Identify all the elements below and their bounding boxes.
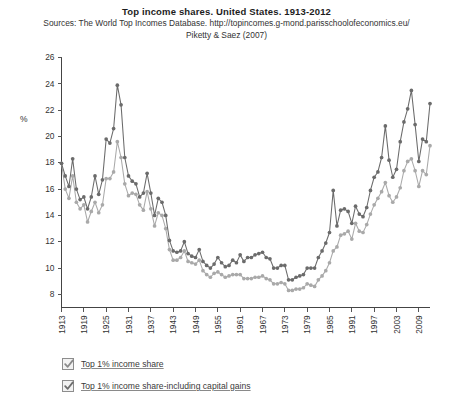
data-point <box>82 203 86 207</box>
series-base <box>60 140 432 292</box>
data-point <box>395 167 399 171</box>
data-point <box>212 271 216 275</box>
data-point <box>324 269 328 273</box>
data-point <box>149 191 153 195</box>
data-point <box>279 264 283 268</box>
legend-checkbox-top1-capgains[interactable] <box>62 380 74 392</box>
data-point <box>179 249 183 253</box>
data-point <box>71 174 75 178</box>
data-point <box>335 245 339 249</box>
series-path <box>62 85 431 280</box>
data-point <box>410 157 414 161</box>
x-tick-label: 1979 <box>303 315 312 334</box>
data-point <box>406 107 410 111</box>
data-point <box>216 270 220 274</box>
data-point <box>93 200 97 204</box>
data-point <box>272 266 276 270</box>
data-point <box>164 214 168 218</box>
data-point <box>313 266 317 270</box>
data-point <box>242 277 246 281</box>
y-tick-label: 26 <box>45 52 55 62</box>
data-point <box>63 187 67 191</box>
data-point <box>115 140 119 144</box>
data-point <box>402 120 406 124</box>
data-point <box>112 127 116 131</box>
data-point <box>246 277 250 281</box>
data-point <box>350 221 354 225</box>
legend-label-top1-capgains: Top 1% income share-including capital ga… <box>81 380 251 392</box>
data-point <box>197 258 201 262</box>
data-point <box>242 260 246 264</box>
data-point <box>331 189 335 193</box>
data-point <box>357 212 361 216</box>
data-point <box>138 203 142 207</box>
data-point <box>220 273 224 277</box>
data-point <box>168 248 172 252</box>
y-tick-label: 8 <box>50 289 55 299</box>
x-tick-label: 1919 <box>80 315 89 334</box>
data-point <box>153 224 157 228</box>
data-point <box>201 269 205 273</box>
data-point <box>223 275 227 279</box>
data-point <box>257 252 261 256</box>
chart-screenshot: Top income shares. United States. 1913-2… <box>0 0 453 406</box>
data-point <box>424 140 428 144</box>
data-point <box>130 191 134 195</box>
data-point <box>305 266 309 270</box>
legend-item-top1-capgains[interactable]: Top 1% income share-including capital ga… <box>62 376 392 396</box>
data-point <box>339 208 343 212</box>
data-point <box>264 277 268 281</box>
data-point <box>115 83 119 87</box>
data-point <box>261 274 265 278</box>
data-point <box>108 141 112 145</box>
data-point <box>410 89 414 93</box>
data-point <box>142 191 146 195</box>
data-point <box>119 103 123 107</box>
data-point <box>402 169 406 173</box>
data-point <box>264 256 268 260</box>
data-point <box>279 281 283 285</box>
data-point <box>212 262 216 266</box>
data-point <box>101 178 105 182</box>
x-tick-label: 1949 <box>192 315 201 334</box>
legend-item-top1[interactable]: Top 1% income share <box>62 354 392 374</box>
data-point <box>316 278 320 282</box>
data-point <box>153 214 157 218</box>
data-point <box>372 175 376 179</box>
data-point <box>361 231 365 235</box>
data-point <box>201 260 205 264</box>
data-point <box>63 174 67 178</box>
y-axis-label: % <box>20 114 28 124</box>
y-tick-label: 12 <box>45 236 55 246</box>
data-point <box>134 182 138 186</box>
data-point <box>97 211 101 215</box>
data-point <box>171 258 175 262</box>
data-point <box>238 253 242 257</box>
legend-checkbox-top1[interactable] <box>62 358 74 370</box>
check-icon <box>64 381 74 391</box>
data-point <box>93 174 97 178</box>
data-point <box>369 212 373 216</box>
data-point <box>253 275 257 279</box>
data-point <box>287 289 291 293</box>
data-point <box>101 203 105 207</box>
data-point <box>272 282 276 286</box>
data-point <box>227 264 231 268</box>
data-point <box>123 182 127 186</box>
data-point <box>194 262 198 266</box>
data-point <box>328 261 332 265</box>
data-point <box>305 282 309 286</box>
data-point <box>60 161 64 165</box>
data-point <box>428 102 432 106</box>
data-point <box>220 261 224 265</box>
data-point <box>398 140 402 144</box>
data-point <box>231 258 235 262</box>
data-point <box>335 224 339 228</box>
chart-canvas: 8101214161820222426%19131919192519311937… <box>0 0 453 350</box>
data-point <box>67 196 71 200</box>
data-point <box>417 160 421 164</box>
data-point <box>302 273 306 277</box>
data-point <box>398 186 402 190</box>
data-point <box>160 200 164 204</box>
series-path <box>62 142 431 291</box>
